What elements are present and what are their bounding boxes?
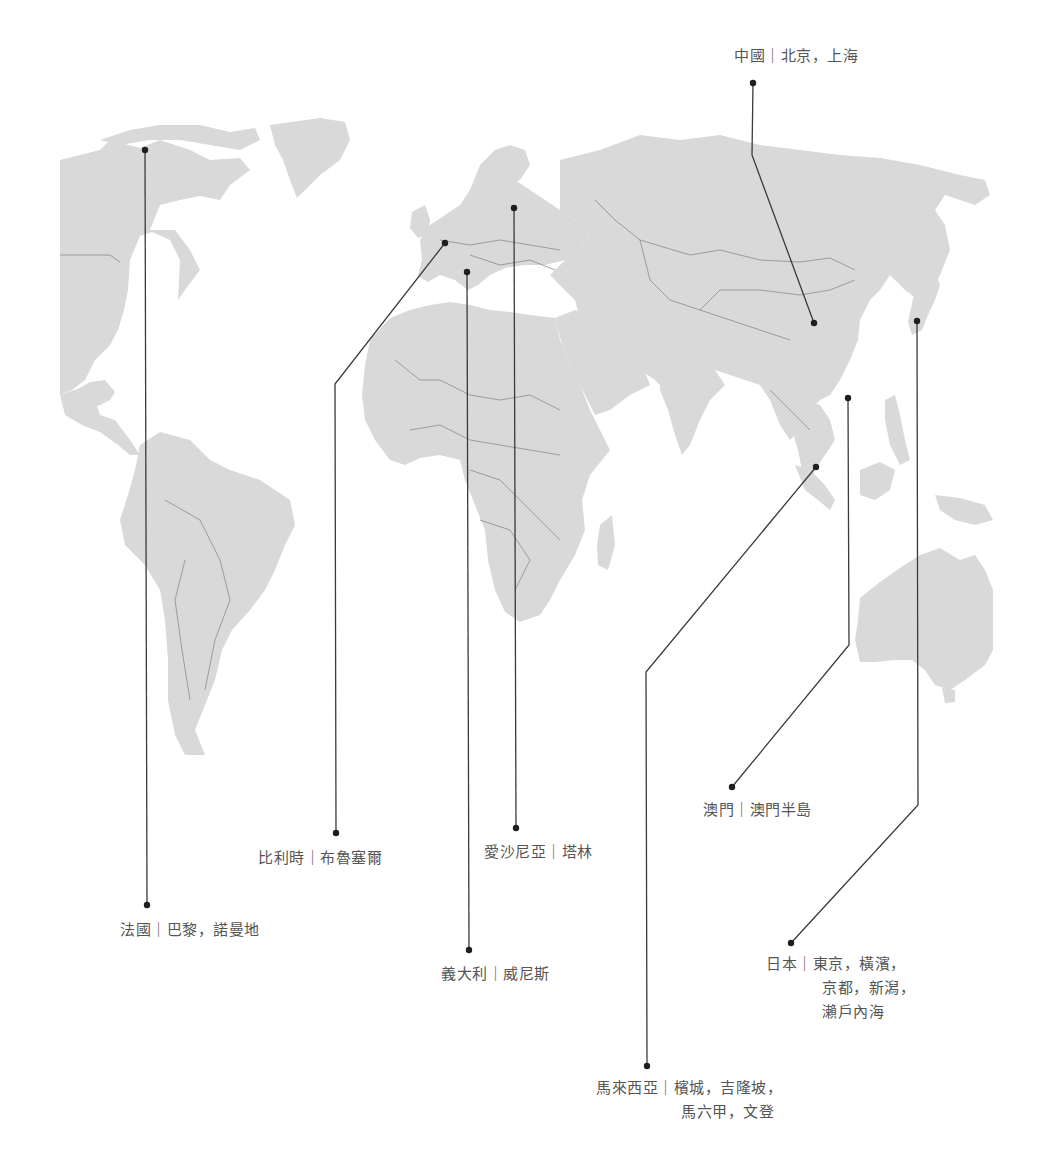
dot-macau-map [845, 395, 851, 401]
label-france-cities: 巴黎，諾曼地 [167, 921, 260, 939]
landmasses [60, 118, 993, 755]
label-separator: ｜ [658, 1079, 674, 1097]
dot-malaysia-map [813, 464, 819, 470]
label-malaysia: 馬來西亞｜檳城，吉隆坡， 馬六甲，文登 [596, 1076, 782, 1124]
greenland [270, 118, 350, 198]
label-macau: 澳門｜澳門半島 [703, 798, 812, 822]
label-belgium-country: 比利時 [258, 849, 305, 867]
australia [855, 548, 993, 690]
label-japan-cities-2: 京都，新潟， [766, 976, 915, 1000]
dot-china-label [750, 80, 756, 86]
label-japan-cities-3: 瀨戶內海 [766, 1000, 915, 1024]
uk [410, 205, 430, 238]
dot-japan-map [914, 318, 920, 324]
leader-line-macau [732, 398, 849, 787]
dot-belgium-label [333, 830, 339, 836]
india [660, 360, 725, 455]
label-macau-country: 澳門 [703, 801, 734, 819]
label-china-cities: 北京，上海 [781, 47, 859, 65]
label-japan: 日本｜東京，橫濱， 京都，新潟， 瀨戶內海 [766, 952, 915, 1024]
label-macau-cities: 澳門半島 [750, 801, 812, 819]
label-japan-country: 日本 [766, 955, 797, 973]
dot-italy-label [466, 947, 472, 953]
label-estonia-country: 愛沙尼亞 [484, 843, 546, 861]
dot-malaysia-label [644, 1063, 650, 1069]
label-italy-country: 義大利 [441, 965, 488, 983]
label-japan-cities-1: 東京，橫濱， [813, 955, 906, 973]
label-separator: ｜ [151, 921, 167, 939]
philippines [885, 395, 910, 465]
label-france-country: 法國 [120, 921, 151, 939]
label-malaysia-cities-2: 馬六甲，文登 [596, 1100, 782, 1124]
label-malaysia-cities-1: 檳城，吉隆坡， [674, 1079, 783, 1097]
dot-japan-label [788, 940, 794, 946]
scandinavia [470, 145, 530, 190]
dot-france-label [144, 902, 150, 908]
dot-estonia-map [511, 205, 517, 211]
label-estonia-cities: 塔林 [562, 843, 593, 861]
label-separator: ｜ [797, 955, 813, 973]
label-separator: ｜ [305, 849, 321, 867]
label-italy: 義大利｜威尼斯 [441, 962, 550, 986]
label-estonia: 愛沙尼亞｜塔林 [484, 840, 593, 864]
north-america [60, 140, 250, 395]
label-separator: ｜ [734, 801, 750, 819]
label-belgium: 比利時｜布魯塞爾 [258, 846, 382, 870]
label-separator: ｜ [546, 843, 562, 861]
label-separator: ｜ [765, 47, 781, 65]
label-italy-cities: 威尼斯 [503, 965, 550, 983]
dot-estonia-label [513, 825, 519, 831]
dot-belgium-map [442, 240, 448, 246]
dot-italy-map [464, 269, 470, 275]
label-france: 法國｜巴黎，諾曼地 [120, 918, 260, 942]
label-separator: ｜ [488, 965, 504, 983]
new-guinea [935, 495, 993, 525]
dot-china-map [811, 320, 817, 326]
sumatra [795, 465, 835, 510]
borneo [860, 462, 895, 500]
label-china: 中國｜北京，上海 [734, 44, 858, 68]
label-belgium-cities: 布魯塞爾 [320, 849, 382, 867]
madagascar [597, 515, 615, 570]
dot-macau-label [729, 784, 735, 790]
label-china-country: 中國 [734, 47, 765, 65]
label-malaysia-country: 馬來西亞 [596, 1079, 658, 1097]
dot-france-map [142, 147, 148, 153]
